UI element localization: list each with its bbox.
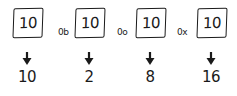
result-value: 8: [132, 68, 168, 86]
box-value: 10: [142, 14, 161, 32]
arrow-down-icon: [205, 52, 217, 66]
value-box: 10: [196, 8, 227, 39]
box-value: 10: [203, 14, 222, 32]
box-value: 10: [19, 14, 38, 32]
prefix-label: 0o: [117, 27, 127, 37]
arrow-down-icon: [144, 52, 156, 66]
arrow-down-icon: [83, 52, 95, 66]
prefix-label: 0x: [177, 27, 187, 37]
arrow-down-icon: [21, 52, 33, 66]
value-box: 10: [12, 8, 43, 39]
column-binary: 0b 10 2: [71, 0, 111, 96]
column-octal: 0o 10 8: [132, 0, 172, 96]
column-decimal: 10 10: [9, 0, 49, 96]
result-value: 16: [193, 68, 229, 86]
value-box: 10: [135, 8, 166, 39]
prefix-label: 0b: [58, 27, 68, 37]
result-value: 2: [71, 68, 107, 86]
column-hexadecimal: 0x 10 16: [193, 0, 233, 96]
result-value: 10: [9, 68, 45, 86]
box-value: 10: [81, 14, 100, 32]
value-box: 10: [74, 8, 105, 39]
